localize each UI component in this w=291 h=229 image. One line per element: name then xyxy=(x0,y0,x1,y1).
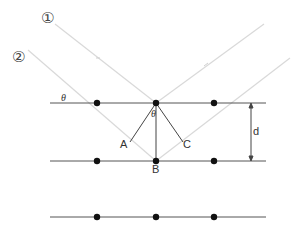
point-C-label: C xyxy=(183,138,191,150)
atom xyxy=(153,214,159,220)
atom xyxy=(211,158,217,164)
atom xyxy=(153,100,159,106)
ray-1-label: ① xyxy=(41,9,54,27)
arrow-down-icon xyxy=(249,156,253,161)
ray-2-label: ② xyxy=(12,48,25,66)
inner-angle-label: θ xyxy=(151,108,156,119)
atom xyxy=(94,158,100,164)
point-B-label: B xyxy=(152,163,159,175)
atom xyxy=(211,100,217,106)
perpendicular-to-C xyxy=(156,103,183,142)
bragg-diagram: ① ② θ θ A C B d xyxy=(0,0,291,229)
incident-angle-label: θ xyxy=(61,92,66,103)
atom xyxy=(94,214,100,220)
ray-1-incident xyxy=(55,24,156,103)
atom xyxy=(211,214,217,220)
arrow-up-icon xyxy=(249,103,253,108)
construction-lines xyxy=(130,103,183,161)
ray-2-reflected xyxy=(156,58,290,161)
ray-2-incident xyxy=(28,50,156,161)
atom xyxy=(94,100,100,106)
point-A-label: A xyxy=(120,138,128,150)
spacing-d-label: d xyxy=(253,125,259,137)
ray-direction-arrows xyxy=(96,58,208,66)
